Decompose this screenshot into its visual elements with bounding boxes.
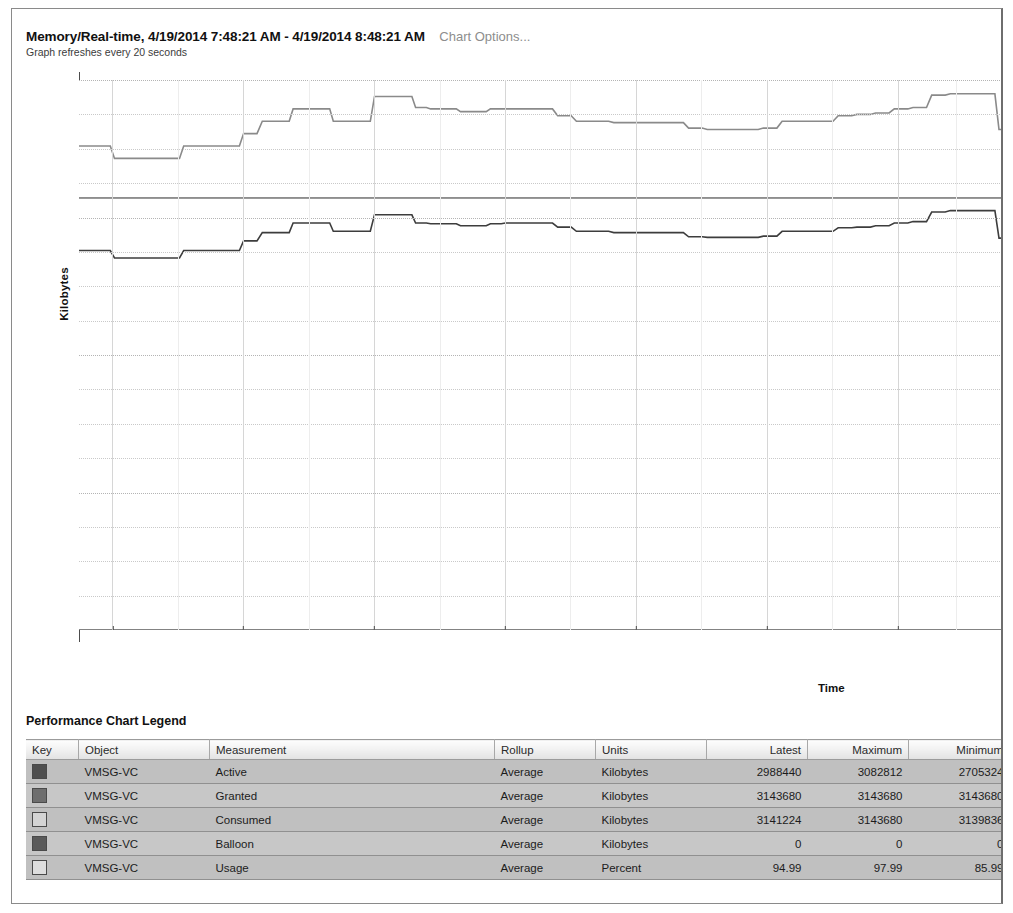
legend-key-cell bbox=[26, 808, 79, 832]
cell-maximum: 3143680 bbox=[808, 784, 909, 808]
x-axis-tick-mark bbox=[767, 626, 768, 630]
table-row[interactable]: VMSG-VCUsageAveragePercent94.9997.9985.9… bbox=[26, 856, 1003, 880]
cell-latest: 0 bbox=[707, 832, 808, 856]
cell-minimum: 2705324 bbox=[909, 760, 1004, 784]
cell-maximum: 97.99 bbox=[808, 856, 909, 880]
color-swatch-icon bbox=[32, 836, 47, 851]
gridline-vertical-minor bbox=[832, 80, 833, 630]
table-row[interactable]: VMSG-VCGrantedAverageKilobytes3143680314… bbox=[26, 784, 1003, 808]
column-header-maximum[interactable]: Maximum bbox=[808, 740, 909, 760]
column-header-measurement[interactable]: Measurement bbox=[210, 740, 495, 760]
cell-minimum: 0 bbox=[909, 832, 1004, 856]
cell-rollup: Average bbox=[495, 832, 596, 856]
gridline-vertical bbox=[636, 80, 637, 630]
gridline-vertical-minor bbox=[440, 80, 441, 630]
cell-latest: 94.99 bbox=[707, 856, 808, 880]
cell-minimum: 85.99 bbox=[909, 856, 1004, 880]
performance-chart-panel: Memory/Real-time, 4/19/2014 7:48:21 AM -… bbox=[11, 8, 1003, 904]
cell-units: Kilobytes bbox=[596, 808, 707, 832]
cell-rollup: Average bbox=[495, 760, 596, 784]
gridline-horizontal bbox=[79, 80, 1003, 81]
legend-table: Key Object Measurement Rollup Units Late… bbox=[26, 739, 1003, 880]
cell-measurement: Usage bbox=[210, 856, 495, 880]
gridline-horizontal bbox=[79, 596, 1003, 597]
cell-rollup: Average bbox=[495, 784, 596, 808]
cell-rollup: Average bbox=[495, 856, 596, 880]
gridline-horizontal bbox=[79, 458, 1003, 459]
cell-measurement: Consumed bbox=[210, 808, 495, 832]
gridline-horizontal bbox=[79, 493, 1003, 494]
x-axis-tick-mark bbox=[898, 626, 899, 630]
gridline-vertical-minor bbox=[701, 80, 702, 630]
cell-object: VMSG-VC bbox=[79, 832, 210, 856]
table-row[interactable]: VMSG-VCBalloonAverageKilobytes0000 bbox=[26, 832, 1003, 856]
x-axis-tick-mark bbox=[636, 626, 637, 630]
gridline-vertical-minor bbox=[309, 80, 310, 630]
legend-table-scroll[interactable]: Key Object Measurement Rollup Units Late… bbox=[26, 739, 1003, 881]
column-header-minimum[interactable]: Minimum bbox=[909, 740, 1004, 760]
gridline-vertical bbox=[243, 80, 244, 630]
color-swatch-icon bbox=[32, 764, 47, 779]
chart-options-link[interactable]: Chart Options... bbox=[439, 29, 530, 44]
legend-key-cell bbox=[26, 856, 79, 880]
x-axis-tick-mark bbox=[505, 626, 506, 630]
column-header-latest[interactable]: Latest bbox=[707, 740, 808, 760]
gridline-vertical bbox=[505, 80, 506, 630]
gridline-horizontal bbox=[79, 286, 1003, 287]
legend-heading: Performance Chart Legend bbox=[26, 714, 186, 728]
gridline-vertical bbox=[374, 80, 375, 630]
cell-measurement: Granted bbox=[210, 784, 495, 808]
cell-maximum: 0 bbox=[808, 832, 909, 856]
cell-object: VMSG-VC bbox=[79, 784, 210, 808]
x-axis-tick-mark bbox=[112, 626, 113, 630]
column-header-units[interactable]: Units bbox=[596, 740, 707, 760]
column-header-key[interactable]: Key bbox=[26, 740, 79, 760]
color-swatch-icon bbox=[32, 788, 47, 803]
gridline-horizontal bbox=[79, 527, 1003, 528]
table-header-row: Key Object Measurement Rollup Units Late… bbox=[26, 740, 1003, 760]
gridline-horizontal bbox=[79, 424, 1003, 425]
table-row[interactable]: VMSG-VCActiveAverageKilobytes29884403082… bbox=[26, 760, 1003, 784]
x-axis-tick-mark bbox=[374, 626, 375, 630]
gridline-horizontal bbox=[79, 114, 1003, 115]
gridline-horizontal bbox=[79, 183, 1003, 184]
column-header-object[interactable]: Object bbox=[79, 740, 210, 760]
legend-key-cell bbox=[26, 832, 79, 856]
cell-object: VMSG-VC bbox=[79, 760, 210, 784]
gridline-vertical-minor bbox=[570, 80, 571, 630]
x-axis-tick-mark bbox=[243, 626, 244, 630]
gridline-horizontal bbox=[79, 252, 1003, 253]
cell-object: VMSG-VC bbox=[79, 808, 210, 832]
legend-key-cell bbox=[26, 760, 79, 784]
color-swatch-icon bbox=[32, 812, 47, 827]
gridline-vertical-minor bbox=[178, 80, 179, 630]
plot-area: 010000002000000300000040000007:50 AM7:55… bbox=[79, 80, 1003, 630]
cell-latest: 3141224 bbox=[707, 808, 808, 832]
table-row[interactable]: VMSG-VCConsumedAverageKilobytes314122431… bbox=[26, 808, 1003, 832]
cell-units: Kilobytes bbox=[596, 784, 707, 808]
gridline-horizontal bbox=[79, 561, 1003, 562]
gridline-horizontal bbox=[79, 321, 1003, 322]
gridline-horizontal bbox=[79, 389, 1003, 390]
cell-rollup: Average bbox=[495, 808, 596, 832]
cell-minimum: 3143680 bbox=[909, 784, 1004, 808]
gridline-horizontal bbox=[79, 355, 1003, 356]
gridline-vertical-minor bbox=[956, 80, 957, 630]
gridline-vertical bbox=[898, 80, 899, 630]
performance-chart: 010000002000000300000040000007:50 AM7:55… bbox=[67, 72, 1003, 642]
cell-latest: 2988440 bbox=[707, 760, 808, 784]
cell-object: VMSG-VC bbox=[79, 856, 210, 880]
gridline-vertical bbox=[767, 80, 768, 630]
refresh-note: Graph refreshes every 20 seconds bbox=[26, 46, 187, 58]
legend-key-cell bbox=[26, 784, 79, 808]
cell-units: Kilobytes bbox=[596, 760, 707, 784]
cell-minimum: 3139836 bbox=[909, 808, 1004, 832]
column-header-rollup[interactable]: Rollup bbox=[495, 740, 596, 760]
gridline-horizontal bbox=[79, 218, 1003, 219]
cell-units: Kilobytes bbox=[596, 832, 707, 856]
x-axis-label: Time bbox=[818, 682, 845, 694]
cell-measurement: Balloon bbox=[210, 832, 495, 856]
cell-latest: 3143680 bbox=[707, 784, 808, 808]
cell-measurement: Active bbox=[210, 760, 495, 784]
chart-header: Memory/Real-time, 4/19/2014 7:48:21 AM -… bbox=[26, 27, 530, 45]
